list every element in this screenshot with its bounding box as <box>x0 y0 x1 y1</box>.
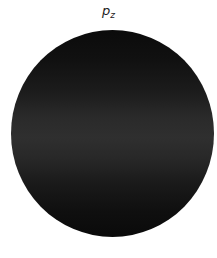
orbital-label: pz <box>0 3 217 19</box>
orbital-label-subscript: z <box>110 10 115 20</box>
pz-orbital-disk <box>11 30 214 237</box>
